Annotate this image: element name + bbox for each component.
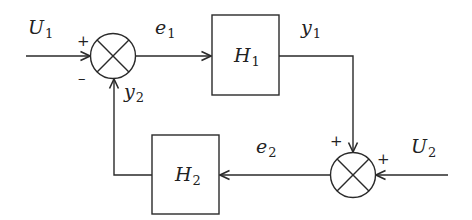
label-y2: y2: [123, 80, 144, 105]
sign-plus-y1: +: [330, 132, 343, 150]
sign-minus-y2: –: [78, 69, 86, 87]
label-u1: U1: [28, 16, 53, 41]
label-u2: U2: [411, 135, 436, 160]
label-e1: e1: [155, 16, 176, 41]
label-e2: e2: [256, 135, 277, 160]
summing-junction-1: [91, 34, 136, 79]
sign-plus-u2: +: [377, 150, 390, 168]
summing-junction-2: [331, 153, 376, 198]
block-diagram: U1 + – e1 H1 y1 y2 e2 H2 + + U2: [0, 0, 472, 220]
label-y1: y1: [300, 16, 321, 41]
sign-plus-u1: +: [77, 32, 90, 50]
